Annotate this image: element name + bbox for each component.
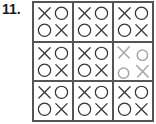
x-mark-icon bbox=[56, 64, 67, 75]
o-mark-icon bbox=[78, 64, 90, 76]
o-mark-icon bbox=[55, 47, 67, 59]
x-mark-icon bbox=[136, 104, 147, 115]
o-mark-icon bbox=[118, 24, 130, 36]
o-mark-icon bbox=[55, 87, 67, 99]
problem-number: 11. bbox=[2, 1, 21, 17]
x-mark-icon bbox=[96, 104, 107, 115]
grid-cell bbox=[73, 42, 113, 82]
o-mark-icon bbox=[78, 104, 90, 116]
o-mark-icon bbox=[78, 24, 90, 36]
o-mark-icon bbox=[95, 87, 107, 99]
o-mark-icon bbox=[118, 104, 130, 116]
x-mark-icon bbox=[119, 8, 130, 19]
puzzle-grid bbox=[32, 1, 154, 122]
o-mark-icon bbox=[38, 104, 50, 116]
x-mark-icon bbox=[119, 87, 130, 98]
x-mark-icon bbox=[79, 87, 90, 98]
x-mark-icon bbox=[118, 46, 129, 57]
x-mark-icon bbox=[39, 87, 50, 98]
grid-cell bbox=[113, 81, 153, 121]
x-mark-icon bbox=[56, 104, 67, 115]
o-mark-icon bbox=[135, 7, 147, 19]
x-mark-icon bbox=[137, 65, 148, 76]
grid-cell bbox=[33, 81, 73, 121]
grid-cell bbox=[113, 2, 153, 42]
o-mark-icon bbox=[118, 68, 128, 78]
grid-cell bbox=[113, 42, 153, 82]
o-mark-icon bbox=[38, 64, 50, 76]
x-mark-icon bbox=[79, 47, 90, 58]
x-mark-icon bbox=[136, 25, 147, 36]
o-mark-icon bbox=[95, 7, 107, 19]
o-mark-icon bbox=[95, 47, 107, 59]
o-mark-icon bbox=[38, 24, 50, 36]
x-mark-icon bbox=[39, 47, 50, 58]
x-mark-icon bbox=[56, 25, 67, 36]
grid-cell bbox=[33, 42, 73, 82]
grid-cell bbox=[33, 2, 73, 42]
grid-cell bbox=[73, 81, 113, 121]
grid-cell bbox=[73, 2, 113, 42]
o-mark-icon bbox=[135, 87, 147, 99]
o-mark-icon bbox=[137, 50, 147, 60]
x-mark-icon bbox=[39, 8, 50, 19]
x-mark-icon bbox=[96, 25, 107, 36]
x-mark-icon bbox=[96, 64, 107, 75]
x-mark-icon bbox=[79, 8, 90, 19]
o-mark-icon bbox=[55, 7, 67, 19]
